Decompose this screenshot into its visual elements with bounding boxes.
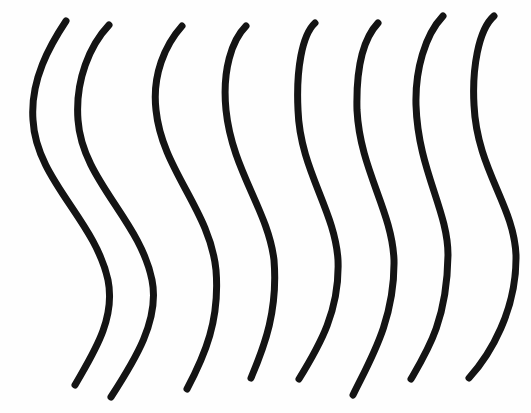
wavy-line-6 xyxy=(353,23,394,395)
wavy-lines-drawing xyxy=(0,0,531,413)
wavy-line-7 xyxy=(411,16,448,379)
wavy-line-5 xyxy=(298,23,339,379)
wavy-lines-svg xyxy=(0,0,531,413)
wavy-line-2 xyxy=(78,25,154,397)
wavy-line-3 xyxy=(155,26,216,389)
wavy-line-8 xyxy=(469,16,516,378)
wavy-line-1 xyxy=(33,21,110,385)
wavy-line-4 xyxy=(225,26,275,378)
